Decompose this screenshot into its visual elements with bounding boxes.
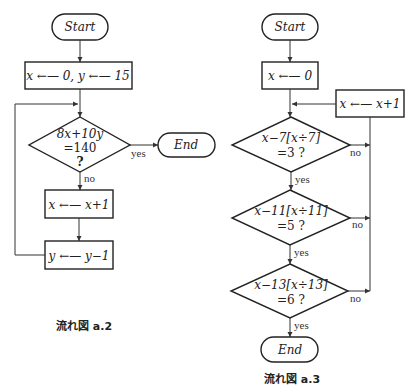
no-label: no <box>350 146 362 158</box>
yes-label: yes <box>294 319 309 331</box>
no-label: no <box>350 292 362 304</box>
svg-text:=140: =140 <box>64 141 97 155</box>
svg-text:=3 ?: =3 ? <box>277 146 305 160</box>
start-terminal: Start <box>262 14 318 40</box>
decision-diamond-mod7: x−7[x÷7] =3 ? <box>232 117 350 172</box>
svg-text:y ←— y−1: y ←— y−1 <box>48 249 110 263</box>
svg-text:=6 ?: =6 ? <box>277 293 305 307</box>
yes-label: yes <box>294 246 309 258</box>
increment-x-box: x ←— x+1 <box>45 190 113 218</box>
flowcharts: Start x ←— 0, y ←— 15 8x+10y =140 ? yes … <box>0 0 413 392</box>
svg-text:x−13[x÷13]: x−13[x÷13] <box>254 278 328 292</box>
svg-text:x−7[x÷7]: x−7[x÷7] <box>262 131 321 145</box>
svg-text:=5 ?: =5 ? <box>277 219 305 233</box>
increment-x-box: x ←— x+1 <box>336 90 404 117</box>
svg-text:End: End <box>277 343 302 357</box>
end-terminal: End <box>261 337 318 362</box>
no-label: no <box>84 172 96 184</box>
init-process-box: x ←— 0, y ←— 15 <box>25 62 132 89</box>
yes-label: yes <box>131 147 146 159</box>
svg-text:x−11[x÷11]: x−11[x÷11] <box>254 204 328 218</box>
svg-text:Start: Start <box>275 20 306 34</box>
svg-text:Start: Start <box>65 20 96 34</box>
svg-text:x ←— 0: x ←— 0 <box>268 69 312 83</box>
decision-diamond-mod11: x−11[x÷11] =5 ? <box>232 190 350 245</box>
flowchart-a2: Start x ←— 0, y ←— 15 8x+10y =140 ? yes … <box>15 14 215 333</box>
start-terminal: Start <box>52 14 108 40</box>
caption: 流れ図 a.3 <box>264 372 320 386</box>
decision-diamond: 8x+10y =140 ? <box>29 117 130 172</box>
svg-text:x ←— 0, y ←— 15: x ←— 0, y ←— 15 <box>26 69 129 83</box>
decrement-y-box: y ←— y−1 <box>45 241 113 269</box>
svg-text:8x+10y: 8x+10y <box>57 127 104 141</box>
decision-diamond-mod13: x−13[x÷13] =6 ? <box>231 264 348 318</box>
no-label: no <box>352 218 364 230</box>
svg-text:End: End <box>173 138 198 152</box>
init-process-box: x ←— 0 <box>262 62 318 89</box>
svg-text:?: ? <box>76 155 83 169</box>
end-terminal: End <box>158 133 215 157</box>
svg-text:x ←— x+1: x ←— x+1 <box>49 198 110 212</box>
yes-label: yes <box>295 173 310 185</box>
caption: 流れ図 a.2 <box>56 319 112 333</box>
flowchart-a3: Start x ←— 0 x ←— x+1 x−7[x÷7] =3 ? no y… <box>231 14 404 386</box>
svg-text:x ←— x+1: x ←— x+1 <box>340 97 401 111</box>
